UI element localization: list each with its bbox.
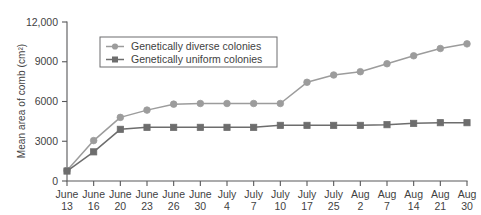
data-point[interactable]: [197, 100, 204, 107]
data-point[interactable]: [144, 107, 151, 114]
x-tick-label-month: Aug: [458, 188, 477, 200]
data-point[interactable]: [331, 122, 337, 128]
data-point[interactable]: [437, 45, 444, 52]
data-point[interactable]: [144, 124, 150, 130]
x-tick-label-day: 10: [274, 200, 286, 212]
x-tick-label-day: 17: [301, 200, 313, 212]
data-point[interactable]: [357, 122, 363, 128]
x-tick-label-month: Aug: [351, 188, 370, 200]
legend-label: Genetically uniform colonies: [131, 53, 262, 65]
data-point[interactable]: [437, 120, 443, 126]
x-tick-label-day: 4: [224, 200, 230, 212]
x-tick-marks: [67, 181, 467, 186]
y-tick-label: 6000: [35, 95, 59, 107]
data-point[interactable]: [171, 124, 177, 130]
x-tick-label-month: Aug: [404, 188, 423, 200]
x-tick-label-day: 25: [328, 200, 340, 212]
x-tick-label-month: June: [136, 188, 159, 200]
x-tick-label-month: July: [244, 188, 263, 200]
legend-label: Genetically diverse colonies: [131, 40, 261, 52]
x-tick-label-month: June: [162, 188, 185, 200]
x-tick-label-day: 7: [384, 200, 390, 212]
x-tick-label-month: Aug: [378, 188, 397, 200]
data-point[interactable]: [251, 124, 257, 130]
x-tick-label-month: July: [271, 188, 290, 200]
series-uniform: [64, 120, 470, 175]
y-tick-marks: [62, 22, 67, 181]
x-tick-label-day: 16: [88, 200, 100, 212]
x-tick-label-day: 13: [61, 200, 73, 212]
data-point[interactable]: [464, 41, 471, 48]
data-point[interactable]: [197, 124, 203, 130]
x-tick-label-month: Aug: [431, 188, 450, 200]
data-point[interactable]: [250, 100, 257, 107]
x-tick-label-month: July: [324, 188, 343, 200]
x-tick-label-month: July: [298, 188, 317, 200]
chart-container: Mean area of comb (cm²) 030006000900012,…: [0, 0, 481, 215]
y-tick-label: 9000: [35, 55, 59, 67]
x-tick-label-day: 20: [114, 200, 126, 212]
chart-legend: Genetically diverse coloniesGenetically …: [100, 37, 277, 67]
data-point[interactable]: [304, 79, 311, 86]
x-tick-label-day: 21: [434, 200, 446, 212]
data-point[interactable]: [410, 52, 417, 59]
x-tick-label-day: 30: [461, 200, 473, 212]
y-tick-labels: 030006000900012,000: [26, 16, 58, 187]
y-axis-label: Mean area of comb (cm²): [16, 44, 27, 159]
y-tick-label: 12,000: [26, 16, 58, 28]
data-point[interactable]: [304, 122, 310, 128]
data-point[interactable]: [224, 100, 231, 107]
legend-marker: [112, 57, 118, 63]
data-point[interactable]: [411, 120, 417, 126]
x-tick-label-day: 23: [141, 200, 153, 212]
legend-marker: [112, 43, 118, 49]
data-point[interactable]: [277, 100, 284, 107]
y-axis-title: Mean area of comb (cm²): [16, 44, 27, 159]
data-point[interactable]: [464, 120, 470, 126]
data-point[interactable]: [91, 149, 97, 155]
x-tick-label-month: June: [189, 188, 212, 200]
x-tick-label-day: 14: [408, 200, 420, 212]
x-tick-label-month: July: [218, 188, 237, 200]
x-tick-label-month: June: [82, 188, 105, 200]
data-point[interactable]: [170, 101, 177, 108]
x-tick-labels: June13June16June20June23June26June30July…: [56, 188, 477, 212]
line-chart: Mean area of comb (cm²) 030006000900012,…: [0, 0, 481, 215]
data-point[interactable]: [277, 122, 283, 128]
data-point[interactable]: [384, 60, 391, 67]
x-tick-label-day: 7: [251, 200, 257, 212]
x-tick-label-month: June: [109, 188, 132, 200]
x-tick-label-day: 26: [168, 200, 180, 212]
x-tick-label-day: 2: [357, 200, 363, 212]
x-tick-label-month: June: [56, 188, 79, 200]
data-point[interactable]: [384, 122, 390, 128]
x-tick-label-day: 30: [194, 200, 206, 212]
y-tick-label: 0: [52, 175, 58, 187]
data-point[interactable]: [117, 126, 123, 132]
data-point[interactable]: [117, 114, 124, 121]
data-point[interactable]: [64, 168, 70, 174]
y-tick-label: 3000: [35, 135, 59, 147]
data-point[interactable]: [357, 68, 364, 75]
series-line: [67, 123, 467, 171]
data-point[interactable]: [330, 72, 337, 79]
data-point[interactable]: [224, 124, 230, 130]
data-point[interactable]: [90, 137, 97, 144]
